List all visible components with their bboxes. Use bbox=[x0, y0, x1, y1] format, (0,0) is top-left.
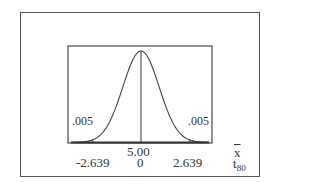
plot-box bbox=[68, 46, 212, 143]
right-tail-label: .005 bbox=[188, 115, 209, 128]
t-axis-subscript: 80 bbox=[237, 163, 246, 173]
t-center-label: 0 bbox=[137, 156, 144, 169]
t-right-label: 2.639 bbox=[173, 156, 202, 169]
left-tail-label: .005 bbox=[72, 115, 93, 128]
t-axis-label: t80 bbox=[233, 157, 246, 172]
t-left-label: -2.639 bbox=[76, 156, 110, 169]
